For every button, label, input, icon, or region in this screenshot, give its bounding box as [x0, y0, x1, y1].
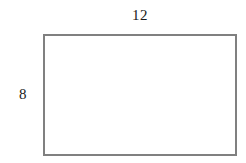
- dimension-label-left: 8: [0, 87, 46, 102]
- rectangle-shape: [43, 34, 237, 156]
- dimension-label-top: 12: [0, 8, 246, 23]
- geometry-figure: 12 8: [0, 0, 246, 163]
